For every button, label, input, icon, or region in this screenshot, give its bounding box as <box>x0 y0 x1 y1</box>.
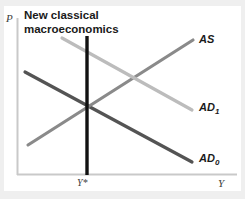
ad0-curve-label-subscript: 0 <box>215 158 219 167</box>
ad0-curve-label: AD0 <box>199 152 219 167</box>
chart-title: New classical macroeconomics <box>24 9 174 36</box>
ad0-curve <box>25 72 192 162</box>
x-axis-tick-label-y-star: Y* <box>77 177 88 188</box>
ad0-curve-label-text: AD <box>199 152 215 164</box>
ad1-curve <box>62 38 192 110</box>
y-axis-label: P <box>6 12 13 24</box>
as-curve-label: AS <box>199 33 214 45</box>
ad1-curve-label-subscript: 1 <box>215 107 219 116</box>
as-curve <box>28 40 193 145</box>
economics-diagram: New classical macroeconomics P Y Y* AS A… <box>0 0 245 199</box>
ad1-curve-label-text: AD <box>199 101 215 113</box>
as-curve-label-text: AS <box>199 33 214 45</box>
x-axis-label: Y <box>218 177 224 189</box>
ad1-curve-label: AD1 <box>199 101 219 116</box>
